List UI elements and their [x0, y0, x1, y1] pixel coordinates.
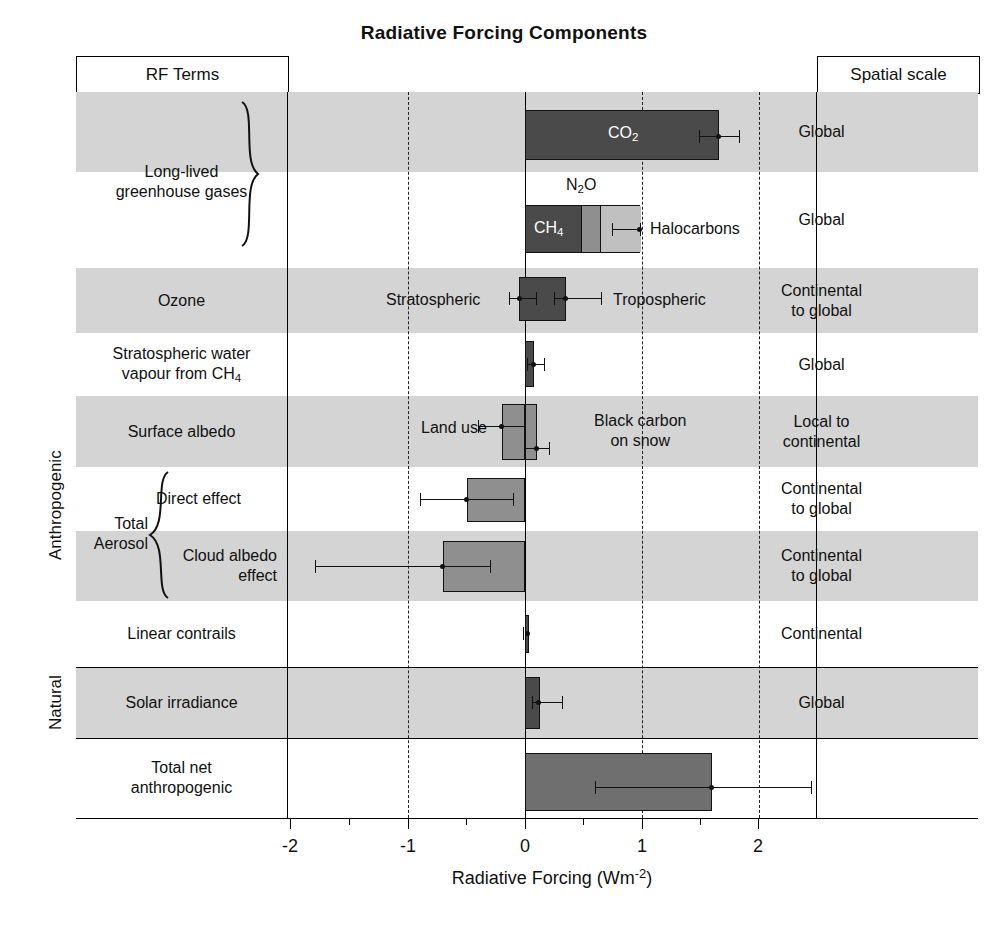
spatial-scale-text: Continentalto global [781, 546, 862, 585]
row-label-surface-albedo: Surface albedo [76, 396, 287, 467]
errorbar-cap [420, 493, 421, 506]
errorbar-cap [532, 696, 533, 709]
errorbar-center-dot [525, 631, 530, 636]
errorbar-center-dot [637, 227, 642, 232]
row-label-text: Linear contrails [127, 624, 236, 644]
bar-label-co2: CO2 [608, 124, 638, 143]
header-rf-terms-label: RF Terms [146, 65, 219, 85]
axis-tick-label--1: -1 [388, 836, 428, 857]
spatial-scale-cell-0: Global [741, 92, 902, 172]
spatial-scale-cell-8: Global [741, 667, 902, 738]
axis-tick-major [525, 818, 526, 829]
header-spatial-scale: Spatial scale [817, 56, 980, 94]
axis-tick-minor [349, 818, 350, 825]
annotation-tropospheric: Tropospheric [613, 291, 706, 309]
axis-tick-label-2: 2 [738, 836, 778, 857]
row-label-text: Cloud albedoeffect [183, 546, 277, 585]
x-axis-line [287, 818, 817, 819]
errorbar-center-dot [440, 564, 445, 569]
header-rf-terms: RF Terms [76, 56, 289, 94]
row-label-text: Ozone [158, 291, 205, 311]
spatial-scale-text: Continentalto global [781, 281, 862, 320]
row-label-strat-water-vapour: Stratospheric watervapour from CH4 [76, 333, 287, 396]
spatial-scale-cell-3: Global [741, 333, 902, 396]
errorbar-cap [544, 358, 545, 371]
errorbar-cap [601, 292, 602, 305]
errorbar-cap [536, 292, 537, 305]
spatial-scale-text: Global [798, 122, 844, 142]
bar-label-ch4: CH4 [534, 219, 564, 238]
errorbar-cap [525, 442, 526, 455]
side-label-anthropogenic: Anthropogenic [46, 450, 66, 560]
row-label-text: Surface albedo [128, 422, 236, 442]
axis-tick-label--2: -2 [270, 836, 310, 857]
errorbar-cap [523, 627, 524, 640]
errorbar-center-dot [709, 785, 714, 790]
errorbar-center-dot [534, 446, 539, 451]
gridline-1 [642, 92, 643, 818]
errorbar-center-dot [464, 497, 469, 502]
annotation-land-use: Land use [421, 419, 487, 437]
spatial-scale-text: Continentalto global [781, 479, 862, 518]
bar-total-net-anthropogenic [525, 753, 712, 811]
errorbar-cap [315, 560, 316, 573]
axis-tick-major [408, 818, 409, 829]
errorbar-halocarbons [612, 229, 640, 230]
spatial-scale-cell-6: Continentalto global [741, 531, 902, 601]
errorbar-center-dot [517, 296, 522, 301]
errorbar-cloud-albedo-effect [315, 566, 490, 567]
errorbar-cap [513, 493, 514, 506]
spatial-scale-text: Local tocontinental [783, 412, 860, 451]
chart-figure: Radiative Forcing Components RF Terms Sp… [0, 0, 1008, 929]
errorbar-cap [612, 223, 613, 236]
errorbar-stratospheric-ozone [509, 298, 536, 299]
errorbar-cap [509, 292, 510, 305]
annotation-halocarbons: Halocarbons [650, 220, 740, 238]
errorbar-cap [478, 420, 479, 433]
row-label-text: Long-livedgreenhouse gases [116, 162, 248, 201]
spatial-scale-cell-4: Local tocontinental [741, 396, 902, 467]
spatial-scale-cell-1: Global [741, 172, 902, 268]
axis-tick-minor [700, 818, 701, 825]
page-title: Radiative Forcing Components [0, 22, 1008, 44]
errorbar-cap [527, 358, 528, 371]
row-label-text: Total netanthropogenic [131, 758, 232, 797]
row-label-linear-contrails: Linear contrails [76, 601, 287, 667]
errorbar-center-dot [531, 362, 536, 367]
errorbar-cap [595, 781, 596, 794]
annotation-stratospheric: Stratospheric [386, 291, 480, 309]
axis-tick-minor [466, 818, 467, 825]
spatial-scale-text: Global [798, 210, 844, 230]
errorbar-cap [525, 420, 526, 433]
annotation-black-carbon-on-snow: Black carbonon snow [594, 411, 687, 451]
spatial-scale-cell-2: Continentalto global [741, 268, 902, 333]
spatial-scale-cell-5: Continentalto global [741, 467, 902, 531]
spatial-scale-text: Global [798, 693, 844, 713]
errorbar-cap [739, 130, 740, 143]
errorbar-cap [549, 442, 550, 455]
brace-long-lived-ghg [236, 100, 276, 248]
axis-tick-label-1: 1 [622, 836, 662, 857]
spatial-scale-text: Global [798, 355, 844, 375]
spatial-scale-cell-7: Continental [741, 601, 902, 667]
axis-tick-major [290, 818, 291, 829]
bar-label-n2o: N2O [566, 176, 596, 195]
x-axis-label: Radiative Forcing (Wm-2) [287, 866, 817, 889]
row-label-ozone: Ozone [76, 268, 287, 333]
total-aerosol-line1: Total [114, 514, 148, 534]
side-label-natural: Natural [46, 675, 66, 730]
axis-tick-minor [583, 818, 584, 825]
axis-tick-major [758, 818, 759, 829]
bar-land-use [502, 404, 525, 460]
gridline--1 [408, 92, 409, 818]
bar-black-carbon-on-snow [525, 404, 537, 460]
row-label-total-aerosol: Total Aerosol [76, 497, 148, 571]
brace-total-aerosol [146, 470, 176, 600]
axis-tick-major [642, 818, 643, 829]
axis-tick-label-0: 0 [505, 836, 545, 857]
total-aerosol-line2: Aerosol [94, 534, 148, 554]
errorbar-center-dot [563, 296, 568, 301]
errorbar-center-dot [536, 700, 541, 705]
spatial-scale-text: Continental [781, 624, 862, 644]
header-spatial-scale-label: Spatial scale [850, 65, 946, 85]
